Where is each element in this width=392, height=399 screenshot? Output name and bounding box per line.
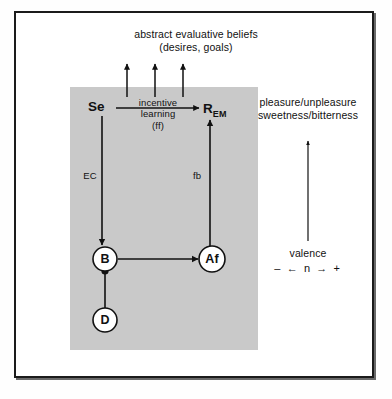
- node-label-rem-subscript: EM: [213, 109, 227, 119]
- edge-label-incentive-line2: learning: [118, 108, 198, 119]
- node-label-af: Af: [200, 252, 224, 267]
- edge-label-incentive-line1: incentive: [118, 97, 198, 108]
- edge-label-incentive-line3: (ff): [118, 120, 198, 131]
- node-label-rem-base: R: [203, 101, 213, 116]
- quality-label-line2: sweetness/bitterness: [240, 109, 376, 121]
- quality-label-line1: pleasure/unpleasure: [240, 96, 376, 108]
- valence-scale: – ← n → +: [262, 262, 354, 275]
- node-label-b: B: [93, 252, 117, 267]
- figure-canvas: abstract evaluative beliefs (desires, go…: [0, 0, 392, 399]
- beliefs-caption-line1: abstract evaluative beliefs: [96, 28, 296, 40]
- edge-label-ec: EC: [79, 170, 101, 181]
- node-label-d: D: [93, 313, 117, 328]
- connector-d-to-b: [101, 267, 108, 308]
- valence-label: valence: [268, 247, 348, 259]
- node-label-rem: REM: [203, 99, 227, 120]
- node-label-se: Se: [88, 99, 105, 115]
- edge-label-fb: fb: [188, 170, 206, 181]
- diagram-arrows-layer: [0, 0, 392, 399]
- beliefs-caption-line2: (desires, goals): [96, 41, 296, 53]
